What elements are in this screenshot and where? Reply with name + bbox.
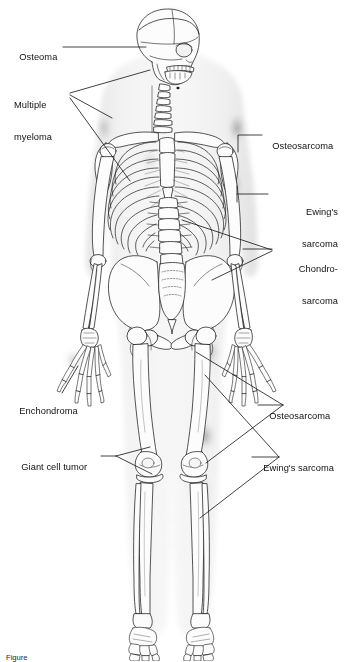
tumor-mark-humerus-r: [229, 114, 245, 142]
label-enchondroma-line1: Enchondroma: [19, 406, 77, 416]
label-ewings-sarcoma-lower-line1: Ewing's sarcoma: [263, 463, 334, 473]
label-enchondroma: Enchondroma: [14, 395, 78, 416]
label-ewings-sarcoma-lower: Ewing's sarcoma: [258, 452, 334, 473]
label-giant-cell-tumor: Giant cell tumor: [16, 451, 87, 472]
label-chondrosarcoma-line1: Chondro-: [248, 264, 338, 275]
ankle-right: [191, 614, 210, 628]
humerus-head-right: [217, 144, 233, 159]
femur-head-left: [127, 327, 147, 345]
patella-right: [189, 458, 201, 468]
figure-caption-text: Figure: [6, 653, 28, 662]
label-osteosarcoma-lower: Osteosarcoma: [264, 400, 330, 421]
label-multiple-myeloma-line1: Multiple: [14, 100, 52, 111]
femur-head-right: [196, 327, 216, 345]
label-giant-cell-tumor-line1: Giant cell tumor: [21, 462, 87, 472]
figure-caption: Figure: [6, 653, 28, 662]
label-osteosarcoma-lower-line1: Osteosarcoma: [269, 411, 330, 421]
label-multiple-myeloma: Multiple myeloma: [14, 79, 52, 153]
label-osteosarcoma-upper-line1: Osteosarcoma: [272, 141, 333, 151]
patella-left: [142, 458, 154, 468]
label-chondrosarcoma-line2: sarcoma: [248, 296, 338, 307]
label-chondrosarcoma: Chondro- sarcoma: [248, 243, 338, 317]
tumor-mark-ribs: [140, 150, 160, 170]
label-osteoma: Osteoma: [14, 41, 57, 62]
ankle-left: [133, 614, 152, 628]
label-osteosarcoma-upper: Osteosarcoma: [267, 130, 333, 151]
label-ewings-sarcoma-upper-line1: Ewing's: [248, 207, 338, 218]
label-multiple-myeloma-line2: myeloma: [14, 132, 52, 143]
label-osteoma-line1: Osteoma: [19, 52, 57, 62]
